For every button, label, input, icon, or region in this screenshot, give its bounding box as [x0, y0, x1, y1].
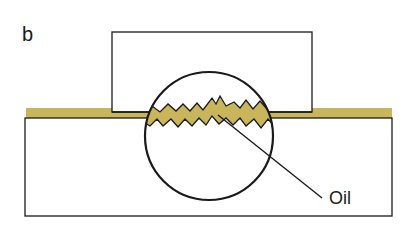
oil-film-contact-diagram: b Oil [0, 0, 409, 232]
oil-callout-label: Oil [329, 188, 351, 208]
panel-label: b [22, 23, 33, 45]
diagram-canvas: b Oil [0, 0, 409, 232]
